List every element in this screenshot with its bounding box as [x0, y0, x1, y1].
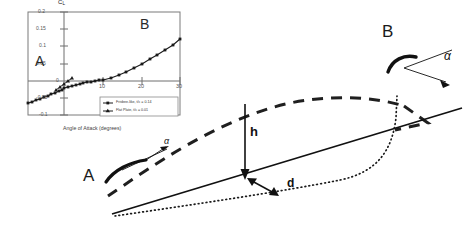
d-measure-arrowhead-start	[247, 178, 257, 186]
figure-root: CL 0.2 0.15 0.1 0.05 0 -0.05 -0.1 10 20 …	[0, 0, 469, 235]
disc-a-flight-line	[122, 149, 167, 170]
disc-shape-b	[388, 56, 416, 72]
d-measure-line	[252, 181, 274, 193]
disc-b-velocity-line	[404, 68, 446, 82]
diagram-label-a: A	[83, 166, 94, 186]
diagram-label-b: B	[382, 22, 393, 42]
solid-reference-line	[112, 108, 462, 214]
trajectory-diagram	[0, 0, 469, 235]
diagram-label-d: d	[287, 176, 294, 190]
diagram-label-alpha-a: α	[164, 136, 169, 146]
diagram-label-h: h	[250, 124, 258, 139]
dotted-trajectory-curve	[115, 96, 397, 216]
disc-shape-a	[106, 160, 146, 182]
diagram-label-alpha-b: α	[444, 49, 451, 63]
dashed-flight-path	[108, 98, 404, 196]
